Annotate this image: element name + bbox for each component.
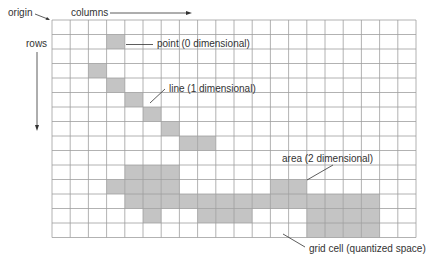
line-label: line (1 dimensional) bbox=[169, 83, 256, 94]
line-cell bbox=[161, 122, 179, 137]
point-cell bbox=[107, 35, 125, 50]
area-cell bbox=[307, 223, 325, 238]
area-cell bbox=[234, 194, 252, 209]
area-cell bbox=[198, 194, 216, 209]
area-label: area (2 dimensional) bbox=[282, 153, 373, 164]
line-cell bbox=[88, 64, 106, 79]
area-cell bbox=[343, 209, 361, 224]
area-cell bbox=[343, 194, 361, 209]
line-cell bbox=[179, 136, 197, 151]
area-cell bbox=[325, 209, 343, 224]
columns-label: columns bbox=[71, 7, 108, 18]
area-cell bbox=[289, 180, 307, 195]
area-cell bbox=[161, 165, 179, 180]
area-cell bbox=[161, 194, 179, 209]
origin-arrow-icon bbox=[35, 14, 50, 20]
columns-arrow-icon bbox=[110, 11, 192, 15]
area-cell bbox=[252, 194, 270, 209]
area-cell bbox=[216, 209, 234, 224]
area-cell bbox=[325, 194, 343, 209]
rows-label: rows bbox=[26, 38, 47, 49]
origin-label: origin bbox=[8, 7, 32, 18]
area-cell bbox=[161, 180, 179, 195]
area-cell bbox=[143, 194, 161, 209]
area-cell bbox=[361, 194, 379, 209]
area-cell bbox=[234, 209, 252, 224]
area-cell bbox=[198, 209, 216, 224]
area-cell bbox=[270, 180, 288, 195]
line-cell bbox=[143, 107, 161, 122]
grid-cell-label: grid cell (quantized space) bbox=[309, 243, 426, 254]
line-leader-line bbox=[150, 89, 165, 103]
area-cell bbox=[307, 194, 325, 209]
area-cell bbox=[143, 209, 161, 224]
area-cell bbox=[216, 194, 234, 209]
area-leader-line bbox=[307, 165, 333, 180]
area-cell bbox=[125, 194, 143, 209]
line-cell bbox=[107, 78, 125, 93]
area-cell bbox=[361, 223, 379, 238]
area-cell bbox=[125, 165, 143, 180]
area-cell bbox=[289, 194, 307, 209]
area-cell bbox=[179, 194, 197, 209]
area-cell bbox=[107, 180, 125, 195]
line-cell bbox=[125, 93, 143, 108]
area-cell bbox=[343, 223, 361, 238]
area-cell bbox=[270, 194, 288, 209]
area-cell bbox=[307, 209, 325, 224]
grid-cell-leader-line bbox=[283, 234, 305, 247]
area-cell bbox=[125, 180, 143, 195]
line-cell bbox=[198, 136, 216, 151]
grid-lines bbox=[52, 20, 416, 238]
area-cell bbox=[143, 165, 161, 180]
area-cell bbox=[325, 223, 343, 238]
area-cell bbox=[361, 209, 379, 224]
area-cell bbox=[143, 180, 161, 195]
point-label: point (0 dimensional) bbox=[157, 38, 250, 49]
rows-arrow-icon bbox=[35, 52, 39, 131]
